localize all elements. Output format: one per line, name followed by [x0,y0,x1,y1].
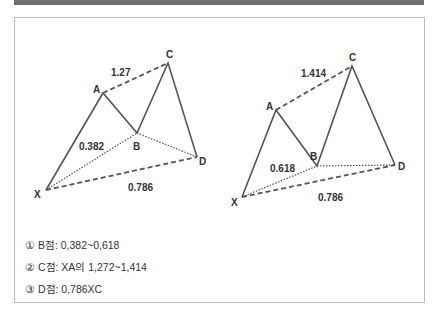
left-ratio-ac: 1.27 [111,67,131,78]
left-zigzag-line [46,63,197,190]
left-point-c: C [166,49,173,60]
note-d-point: ③ D점: 0,786XC [25,282,147,304]
note-c-point: ② C점: XA의 1,272~1,414 [25,260,147,282]
left-bd-dotted [137,133,197,157]
right-ratio-xb: 0.618 [270,163,295,174]
right-bd-dotted [317,165,395,166]
right-point-a: A [266,101,273,112]
right-point-c: C [349,52,356,63]
right-ratio-xd: 0.786 [318,192,343,203]
note-b-point: ① B점: 0,382~0,618 [25,238,147,260]
right-point-x: X [231,197,238,208]
left-point-b: B [133,141,140,152]
left-ratio-xd: 0.786 [128,182,153,193]
left-ratio-xb: 0.382 [79,141,104,152]
right-point-d: D [398,161,405,172]
left-point-x: X [34,189,41,200]
right-ratio-ac: 1.414 [301,68,326,79]
left-point-d: D [199,156,206,167]
right-point-b: B [310,151,317,162]
right-pattern [242,66,395,197]
left-xd-dashed [46,157,197,190]
left-pattern [46,63,197,190]
pattern-notes: ① B점: 0,382~0,618 ② C점: XA의 1,272~1,414 … [25,238,147,304]
left-point-a: A [93,84,100,95]
